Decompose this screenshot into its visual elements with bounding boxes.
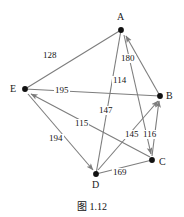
node-label-D: D (92, 180, 99, 190)
node-label-B: B (166, 91, 173, 101)
edge-A-E (25, 30, 121, 89)
edge-A-D (96, 30, 121, 174)
node-label-E: E (10, 84, 16, 94)
edge-weight-C-B: 116 (142, 130, 157, 139)
node-B (157, 93, 163, 99)
node-label-A: A (117, 12, 124, 22)
edge-weight-C-E: 115 (74, 119, 89, 128)
node-label-C: C (159, 157, 166, 167)
edge-weight-A-D: 147 (98, 106, 114, 115)
edge-C-E (31, 94, 150, 157)
edge-weight-D-C: 169 (112, 168, 128, 177)
figure-caption: 图 1.12 (0, 198, 184, 213)
figure-container: A B C D E 128 180 114 195 147 115 145 11… (0, 0, 184, 217)
node-C (149, 157, 155, 163)
edge-weight-D-B: 145 (124, 130, 140, 139)
edge-E-D (28, 94, 93, 170)
edge-E-B (25, 89, 160, 96)
edge-weight-A-C: 114 (112, 76, 127, 85)
edge-weight-E-D: 194 (48, 134, 64, 143)
node-D (93, 171, 99, 177)
edge-weight-A-E: 128 (42, 51, 58, 60)
node-E (22, 86, 28, 92)
node-A (118, 27, 124, 33)
edge-weight-B-A: 180 (120, 54, 136, 63)
edge-weight-E-B: 195 (54, 86, 70, 95)
